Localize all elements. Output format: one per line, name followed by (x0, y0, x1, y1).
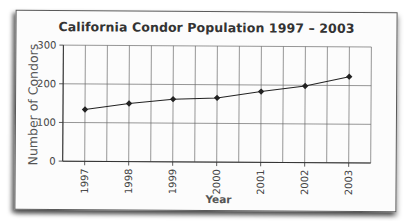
x-tick-label: 1997 (79, 168, 90, 194)
y-tick-label: 300 (37, 39, 56, 50)
diamond-marker (302, 83, 308, 89)
x-tick-label: 1998 (123, 168, 134, 194)
diamond-marker (258, 88, 264, 94)
grid-lines (63, 45, 372, 163)
x-tick-label: 2001 (255, 169, 266, 195)
diamond-marker (170, 96, 176, 102)
diamond-marker (214, 95, 220, 101)
x-axis-ticks: 1997199819992000200120022003 (79, 161, 354, 195)
x-tick-label: 2003 (343, 170, 354, 196)
y-tick-label: 100 (37, 117, 56, 128)
chart-card: California Condor Population 1997 – 2003… (14, 10, 397, 212)
y-axis-ticks: 0100200300 (37, 39, 64, 166)
x-tick-label: 2002 (299, 170, 310, 196)
x-tick-label: 1999 (167, 169, 178, 195)
y-tick-label: 0 (49, 156, 55, 167)
y-tick-label: 200 (37, 78, 56, 89)
x-tick-label: 2000 (211, 169, 222, 195)
diamond-marker (82, 106, 88, 112)
diamond-marker (126, 100, 132, 106)
diamond-marker (346, 73, 352, 79)
plot-area: 0100200300 1997199819992000200120022003 (15, 11, 396, 211)
